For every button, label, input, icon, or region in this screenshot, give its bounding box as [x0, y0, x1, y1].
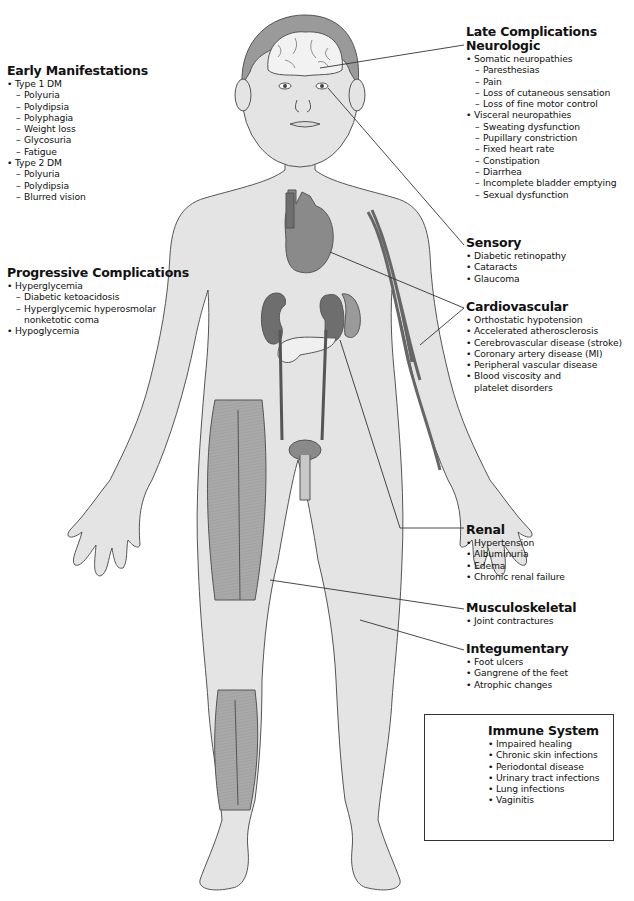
cardio-item: Peripheral vascular disease: [466, 359, 622, 370]
ear-left: [235, 79, 251, 111]
early-group-label: Type 2 DM: [7, 157, 148, 168]
neuro-subitem: Pain: [466, 76, 616, 87]
cardio-item: Cerebrovascular disease (stroke): [466, 337, 622, 348]
progressive-subitem-cont: nonketotic coma: [7, 314, 189, 325]
renal: Renal Hypertension Albuminuria Edema Chr…: [466, 523, 565, 582]
ear-right: [349, 79, 365, 111]
cardio-item: Accelerated atherosclerosis: [466, 325, 622, 336]
neuro-subitem: Sexual dysfunction: [466, 189, 616, 200]
immune-item: Chronic skin infections: [488, 749, 600, 760]
cardio-item-cont: platelet disorders: [466, 382, 622, 393]
neuro-item: Somatic neuropathies: [466, 53, 616, 64]
late-complications: Late Complications Neurologic Somatic ne…: [466, 25, 616, 200]
cardio-title: Cardiovascular: [466, 300, 622, 314]
immune-title: Immune System: [488, 724, 600, 738]
progressive-complications: Progressive Complications Hyperglycemia …: [7, 266, 189, 336]
immune-item: Urinary tract infections: [488, 772, 600, 783]
renal-item: Edema: [466, 560, 565, 571]
early-item: Polydipsia: [7, 180, 148, 191]
early-manifestations: Early Manifestations Type 1 DM Polyuria …: [7, 64, 148, 202]
progressive-subitem: Hyperglycemic hyperosmolar: [7, 303, 189, 314]
progressive-item: Hypoglycemia: [7, 325, 189, 336]
early-group-label: Type 1 DM: [7, 78, 148, 89]
early-item: Polydipsia: [7, 101, 148, 112]
neuro-item: Visceral neuropathies: [466, 109, 616, 120]
immune-item: Impaired healing: [488, 738, 600, 749]
early-title: Early Manifestations: [7, 64, 148, 78]
neuro-subitem: Pupillary constriction: [466, 132, 616, 143]
sensory-item: Cataracts: [466, 261, 566, 272]
sensory-item: Diabetic retinopathy: [466, 250, 566, 261]
renal-item: Hypertension: [466, 537, 565, 548]
neuro-subitem: Paresthesias: [466, 64, 616, 75]
sensory-title: Sensory: [466, 236, 566, 250]
renal-item: Albuminuria: [466, 548, 565, 559]
integ-item: Foot ulcers: [466, 656, 568, 667]
early-item: Glycosuria: [7, 134, 148, 145]
sensory-item: Glaucoma: [466, 273, 566, 284]
integ-item: Atrophic changes: [466, 679, 568, 690]
neurologic-title: Neurologic: [466, 39, 616, 53]
renal-title: Renal: [466, 523, 565, 537]
progressive-subitem: Diabetic ketoacidosis: [7, 291, 189, 302]
neuro-subitem: Sweating dysfunction: [466, 121, 616, 132]
sensory: Sensory Diabetic retinopathy Cataracts G…: [466, 236, 566, 284]
immune-item: Periodontal disease: [488, 761, 600, 772]
early-item: Weight loss: [7, 123, 148, 134]
neuro-subitem: Constipation: [466, 155, 616, 166]
integumentary: Integumentary Foot ulcers Gangrene of th…: [466, 642, 568, 690]
immune-item: Lung infections: [488, 783, 600, 794]
late-title: Late Complications: [466, 25, 616, 39]
early-item: Polyuria: [7, 168, 148, 179]
cardio-item: Orthostatic hypotension: [466, 314, 622, 325]
immune-item: Vaginitis: [488, 794, 600, 805]
early-item: Polyphagia: [7, 112, 148, 123]
cardio-item: Coronary artery disease (MI): [466, 348, 622, 359]
neuro-subitem: Loss of cutaneous sensation: [466, 87, 616, 98]
neuro-subitem: Diarrhea: [466, 166, 616, 177]
renal-item: Chronic renal failure: [466, 571, 565, 582]
musculo-title: Musculoskeletal: [466, 601, 576, 615]
early-item: Fatigue: [7, 146, 148, 157]
cardiovascular: Cardiovascular Orthostatic hypotension A…: [466, 300, 622, 393]
thigh-muscles: [208, 400, 266, 600]
neuro-subitem: Fixed heart rate: [466, 143, 616, 154]
early-item: Blurred vision: [7, 191, 148, 202]
cardio-item: Blood viscosity and: [466, 370, 622, 381]
musculo-item: Joint contractures: [466, 615, 576, 626]
musculoskeletal: Musculoskeletal Joint contractures: [466, 601, 576, 626]
immune-system: Immune System Impaired healing Chronic s…: [488, 724, 600, 806]
neuro-subitem: Incomplete bladder emptying: [466, 177, 616, 188]
neuro-subitem: Loss of fine motor control: [466, 98, 616, 109]
progressive-title: Progressive Complications: [7, 266, 189, 280]
progressive-item: Hyperglycemia: [7, 280, 189, 291]
early-item: Polyuria: [7, 89, 148, 100]
integ-item: Gangrene of the feet: [466, 667, 568, 678]
integ-title: Integumentary: [466, 642, 568, 656]
